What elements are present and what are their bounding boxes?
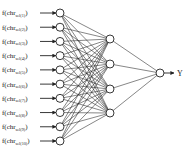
input-node — [56, 23, 64, 31]
input-node — [56, 123, 64, 131]
edge-input-hidden — [60, 39, 110, 56]
input-node — [56, 109, 64, 117]
edge-hidden-output — [110, 73, 160, 89]
edge-input-hidden — [60, 56, 110, 113]
input-label: f(chrsel(4)) — [2, 52, 28, 61]
input-node — [56, 137, 64, 145]
input-label: f(chrsel(10)) — [2, 137, 30, 146]
edge-input-hidden — [60, 13, 110, 39]
hidden-node — [106, 60, 114, 68]
edge-hidden-output — [110, 64, 160, 73]
edge-input-hidden — [60, 89, 110, 127]
output-node — [156, 69, 164, 77]
hidden-node — [106, 35, 114, 43]
edge-input-hidden — [60, 70, 110, 113]
input-label: f(chrsel(1)) — [2, 9, 28, 18]
input-label: f(chrsel(3)) — [2, 38, 28, 47]
hidden-node — [106, 109, 114, 117]
input-labels: f(chrsel(1))f(chrsel(2))f(chrsel(3))f(ch… — [2, 9, 56, 146]
input-label: f(chrsel(8)) — [2, 109, 28, 118]
edge-hidden-output — [110, 73, 160, 113]
edge-input-hidden — [60, 27, 110, 39]
input-node — [56, 94, 64, 102]
input-label: f(chrsel(7)) — [2, 95, 28, 104]
input-label: f(chrsel(2)) — [2, 24, 28, 33]
input-node — [56, 66, 64, 74]
input-node — [56, 52, 64, 60]
edge-hidden-output — [110, 39, 160, 73]
edge-input-hidden — [60, 13, 110, 64]
connection-edges — [60, 13, 160, 141]
output-label: Y — [177, 69, 183, 78]
input-label: f(chrsel(6)) — [2, 81, 28, 90]
input-node — [56, 80, 64, 88]
neural-network-diagram: f(chrsel(1))f(chrsel(2))f(chrsel(3))f(ch… — [0, 0, 195, 156]
hidden-node — [106, 85, 114, 93]
input-node — [56, 9, 64, 17]
input-label: f(chrsel(5)) — [2, 66, 28, 75]
input-label: f(chrsel(9)) — [2, 123, 28, 132]
input-node — [56, 37, 64, 45]
